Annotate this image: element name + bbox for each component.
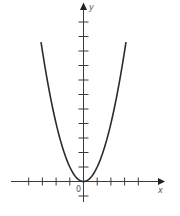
x-axis-arrow-icon [158, 178, 165, 185]
y-axis-arrow-icon [80, 3, 87, 11]
origin-label: 0 [76, 185, 81, 194]
parabola-chart: y x 0 [0, 0, 180, 216]
y-axis-label: y [88, 3, 94, 12]
x-axis-label: x [157, 186, 163, 195]
